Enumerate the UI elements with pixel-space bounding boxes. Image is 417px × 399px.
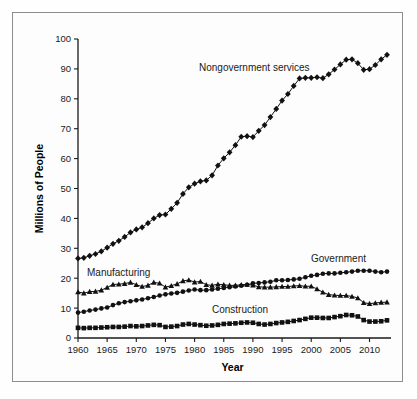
data-point-circle — [379, 270, 384, 275]
data-point-square — [210, 323, 215, 328]
series-label-manufacturing: Manufacturing — [87, 267, 150, 278]
y-axis-title: Millions of People — [33, 144, 45, 233]
employment-line-chart: 0102030405060708090100196019651970197519… — [0, 0, 417, 399]
data-point-circle — [210, 287, 215, 292]
data-point-circle — [350, 269, 355, 274]
y-tick-label: 50 — [60, 183, 71, 194]
series-construction — [76, 313, 390, 331]
data-point-circle — [151, 295, 156, 300]
y-tick-label: 0 — [66, 332, 71, 343]
data-point-diamond — [157, 212, 163, 218]
data-point-triangle — [99, 287, 105, 292]
data-point-square — [134, 324, 139, 329]
x-tick-label: 1975 — [155, 344, 176, 355]
y-tick-label: 60 — [60, 153, 71, 164]
data-point-circle — [321, 271, 326, 276]
data-point-square — [239, 320, 244, 325]
data-point-square — [163, 325, 168, 330]
data-point-circle — [216, 286, 221, 291]
data-point-square — [186, 322, 191, 327]
data-point-circle — [361, 268, 366, 273]
data-point-diamond — [192, 181, 198, 187]
data-point-square — [361, 318, 366, 323]
data-point-square — [315, 315, 320, 320]
data-point-diamond — [139, 224, 145, 230]
data-point-circle — [303, 275, 308, 280]
data-point-circle — [198, 288, 203, 293]
data-point-square — [87, 326, 92, 331]
data-point-circle — [262, 280, 267, 285]
data-point-triangle — [174, 281, 180, 286]
data-point-square — [338, 314, 343, 319]
data-point-circle — [117, 301, 122, 306]
data-point-circle — [140, 297, 145, 302]
data-point-diamond — [93, 251, 99, 257]
data-point-triangle — [186, 277, 192, 282]
data-point-diamond — [314, 74, 320, 80]
data-point-square — [291, 319, 296, 324]
data-point-diamond — [116, 238, 122, 244]
data-point-square — [93, 326, 98, 331]
data-point-square — [204, 323, 209, 328]
data-point-circle — [99, 306, 104, 311]
data-point-square — [128, 324, 133, 329]
x-tick-label: 1995 — [271, 344, 292, 355]
y-tick-label: 70 — [60, 123, 71, 134]
data-point-square — [117, 325, 122, 330]
data-point-square — [309, 315, 314, 320]
data-point-diamond — [81, 255, 87, 261]
y-tick-label: 30 — [60, 243, 71, 254]
data-point-circle — [134, 298, 139, 303]
data-point-circle — [291, 277, 296, 282]
data-point-diamond — [349, 56, 355, 62]
data-point-square — [105, 325, 110, 330]
series-manufacturing — [75, 277, 390, 306]
data-point-diamond — [198, 178, 204, 184]
data-point-square — [303, 317, 308, 322]
data-point-square — [245, 320, 250, 325]
data-point-square — [169, 324, 174, 329]
y-tick-label: 90 — [60, 63, 71, 74]
series-label-government: Government — [311, 253, 366, 264]
x-tick-label: 1970 — [126, 344, 147, 355]
data-point-circle — [280, 278, 285, 283]
data-point-circle — [82, 309, 87, 314]
data-point-circle — [367, 268, 372, 273]
data-point-diamond — [98, 248, 104, 254]
data-point-circle — [93, 307, 98, 312]
data-point-circle — [192, 287, 197, 292]
data-point-square — [268, 322, 273, 327]
data-point-diamond — [87, 253, 93, 259]
data-point-circle — [373, 269, 378, 274]
data-point-square — [379, 319, 384, 324]
data-point-triangle — [151, 280, 157, 285]
data-point-square — [192, 322, 197, 327]
data-point-circle — [326, 271, 331, 276]
data-point-square — [122, 324, 127, 329]
data-point-diamond — [110, 241, 116, 247]
data-point-triangle — [314, 286, 320, 291]
data-point-square — [256, 322, 261, 327]
data-point-triangle — [75, 289, 81, 294]
data-point-triangle — [145, 283, 151, 288]
series-nongovernment-services — [75, 52, 390, 262]
series-group — [75, 52, 390, 331]
data-point-square — [286, 320, 291, 325]
y-tick-label: 20 — [60, 273, 71, 284]
data-point-circle — [332, 271, 337, 276]
data-point-square — [280, 320, 285, 325]
data-point-triangle — [128, 280, 134, 285]
data-point-circle — [385, 269, 390, 274]
y-tick-label: 80 — [60, 93, 71, 104]
data-point-square — [233, 321, 238, 326]
data-point-square — [99, 325, 104, 330]
data-point-square — [157, 323, 162, 328]
data-point-circle — [181, 289, 186, 294]
data-point-square — [111, 325, 116, 330]
x-axis-title: Year — [221, 361, 243, 373]
data-point-diamond — [133, 226, 139, 232]
data-point-square — [367, 319, 372, 324]
series-annotations: Nongovernment servicesManufacturingGover… — [87, 62, 366, 315]
x-tick-label: 1965 — [97, 344, 118, 355]
data-point-square — [76, 326, 81, 331]
